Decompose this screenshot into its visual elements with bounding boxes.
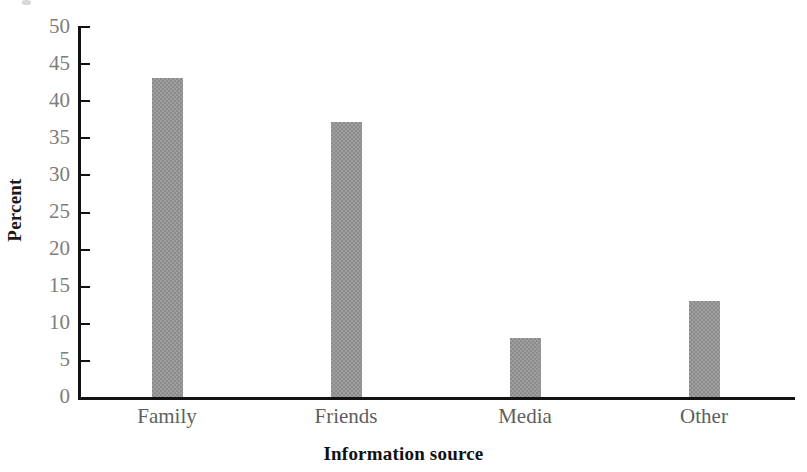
- bar-other: [689, 301, 720, 397]
- y-tick-label-20: 20: [26, 238, 70, 259]
- cropped-caption-remnant: [22, 0, 31, 5]
- y-tick-label-45: 45: [26, 53, 70, 74]
- x-tick-label-family: Family: [87, 404, 247, 429]
- y-tick-mark-10: [81, 323, 90, 325]
- y-tick-label-0: 0: [26, 386, 70, 407]
- y-tick-mark-35: [81, 137, 90, 139]
- x-tick-label-media: Media: [445, 404, 605, 429]
- y-tick-label-50: 50: [26, 16, 70, 37]
- y-axis-label-text: Percent: [4, 178, 26, 241]
- y-tick-mark-25: [81, 212, 90, 214]
- y-tick-label-30: 30: [26, 164, 70, 185]
- bar-media: [510, 338, 541, 397]
- y-tick-label-25: 25: [26, 201, 70, 222]
- x-axis-line: [78, 397, 795, 400]
- y-tick-mark-5: [81, 360, 90, 362]
- y-tick-label-40: 40: [26, 90, 70, 111]
- y-tick-mark-45: [81, 63, 90, 65]
- bar-chart-figure: Percent 50 45 40 35 30 25 20 15 10 5 0 F…: [0, 0, 807, 472]
- bar-family: [152, 78, 183, 397]
- y-tick-mark-30: [81, 174, 90, 176]
- y-tick-mark-40: [81, 100, 90, 102]
- y-tick-label-15: 15: [26, 275, 70, 296]
- bar-friends: [331, 122, 362, 397]
- y-tick-label-35: 35: [26, 127, 70, 148]
- x-axis-label: Information source: [0, 443, 807, 465]
- x-tick-label-friends: Friends: [266, 404, 426, 429]
- y-tick-label-5: 5: [26, 349, 70, 370]
- y-tick-mark-50: [81, 26, 90, 28]
- plot-area: [78, 26, 795, 397]
- y-tick-label-10: 10: [26, 312, 70, 333]
- y-tick-mark-15: [81, 286, 90, 288]
- x-tick-label-other: Other: [624, 404, 784, 429]
- y-tick-mark-20: [81, 249, 90, 251]
